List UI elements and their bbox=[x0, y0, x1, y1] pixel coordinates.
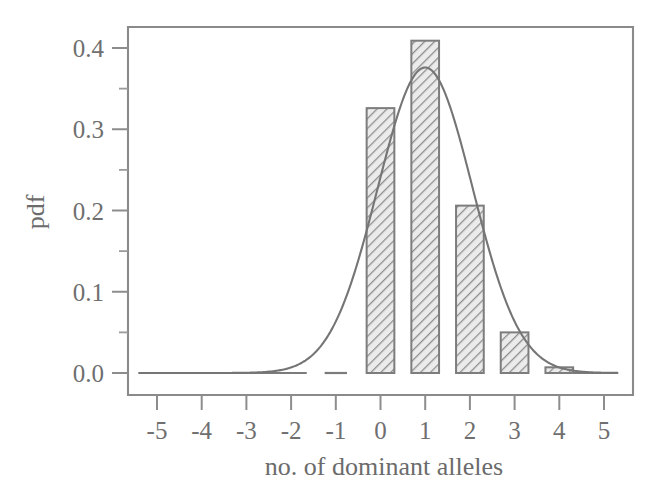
x-tick-label: 1 bbox=[419, 417, 432, 444]
x-tick-label: -1 bbox=[325, 417, 346, 444]
x-tick-label: 2 bbox=[464, 417, 477, 444]
y-tick-label: 0.3 bbox=[73, 116, 104, 143]
x-tick-label: -3 bbox=[236, 417, 257, 444]
bar bbox=[411, 41, 439, 373]
y-tick-label: 0.1 bbox=[73, 279, 104, 306]
y-tick-label: 0.2 bbox=[73, 198, 104, 225]
y-axis-title: pdf bbox=[21, 194, 50, 229]
x-tick-label: 4 bbox=[553, 417, 566, 444]
y-tick-label: 0.0 bbox=[73, 360, 104, 387]
x-tick-label: 3 bbox=[508, 417, 521, 444]
y-tick-label: 0.4 bbox=[73, 35, 105, 62]
bar bbox=[456, 206, 484, 373]
x-tick-label: -5 bbox=[147, 417, 168, 444]
chart-figure: 0.00.10.20.30.4 -5-4-3-2-1012345 pdf no.… bbox=[0, 0, 667, 493]
binomial-pdf-chart: 0.00.10.20.30.4 -5-4-3-2-1012345 pdf no.… bbox=[0, 0, 667, 493]
x-tick-label: 5 bbox=[598, 417, 611, 444]
x-tick-label: -4 bbox=[191, 417, 212, 444]
bar bbox=[367, 108, 395, 373]
x-axis-title: no. of dominant alleles bbox=[265, 452, 503, 481]
x-tick-label: -2 bbox=[281, 417, 302, 444]
x-tick-label: 0 bbox=[374, 417, 387, 444]
